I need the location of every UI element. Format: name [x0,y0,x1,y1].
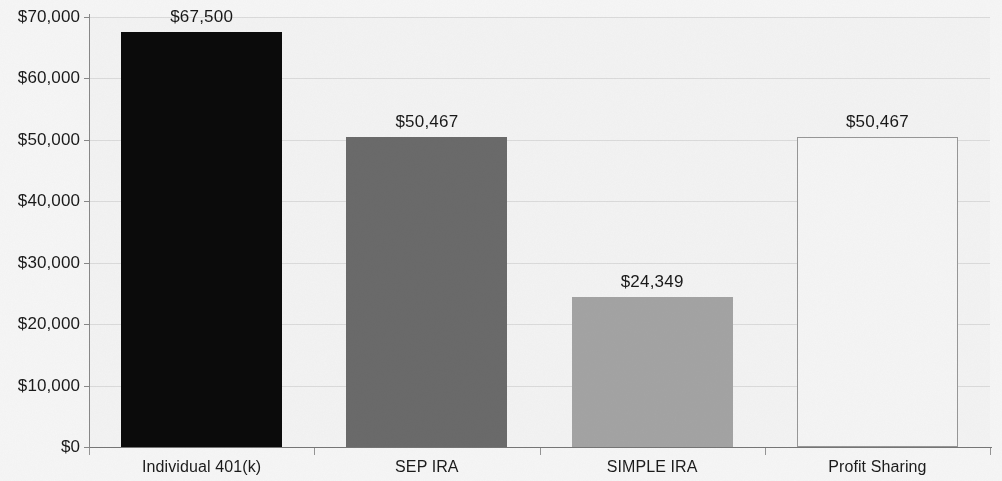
y-axis-tick-label: $60,000 [0,68,80,88]
bar-value-label: $67,500 [112,7,292,27]
y-axis-tick-mark [84,201,90,202]
x-axis-category-label: Individual 401(k) [87,458,317,476]
bar-chart: $0$10,000$20,000$30,000$40,000$50,000$60… [0,0,1002,481]
bar-value-label: $24,349 [562,272,742,292]
x-axis-tick-mark [89,448,90,455]
x-axis-tick-mark [990,448,991,455]
y-axis-tick-label: $30,000 [0,253,80,273]
bar-value-label: $50,467 [787,112,967,132]
bar[interactable] [121,32,282,447]
y-axis-tick-label: $20,000 [0,314,80,334]
y-axis-tick-mark [84,263,90,264]
y-axis-tick-mark [84,386,90,387]
bar[interactable] [572,297,733,447]
x-axis-category-label: SEP IRA [312,458,542,476]
x-axis-category-label: SIMPLE IRA [537,458,767,476]
bar[interactable] [346,137,507,447]
x-axis-category-label: Profit Sharing [762,458,992,476]
y-axis-tick-mark [84,17,90,18]
bar-value-label: $50,467 [337,112,517,132]
x-axis-tick-mark [314,448,315,455]
x-axis-tick-mark [540,448,541,455]
y-axis-tick-label: $0 [0,437,80,457]
y-axis-tick-mark [84,324,90,325]
x-axis-tick-mark [765,448,766,455]
y-axis-tick-label: $10,000 [0,376,80,396]
y-axis-tick-label: $70,000 [0,7,80,27]
x-axis-line [86,447,992,448]
y-axis-tick-mark [84,78,90,79]
y-axis-tick-mark [84,140,90,141]
y-axis-tick-label: $50,000 [0,130,80,150]
y-axis-tick-label: $40,000 [0,191,80,211]
bar[interactable] [797,137,958,447]
